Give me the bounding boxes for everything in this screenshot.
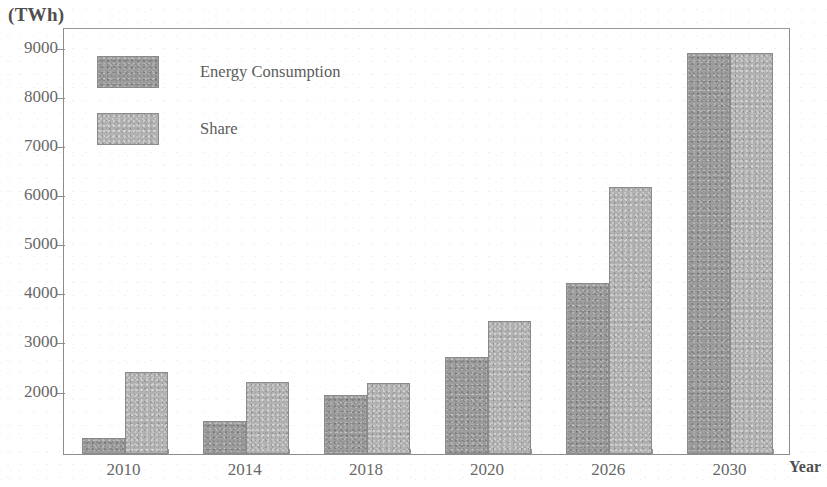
x-axis-caption: Year — [789, 458, 821, 476]
legend-swatch — [97, 113, 159, 145]
x-axis-tick-mark — [531, 449, 532, 455]
legend-swatch — [97, 56, 159, 88]
bar-share-2030 — [730, 53, 773, 454]
y-axis-tick-mark — [57, 294, 65, 295]
bar-energy-consumption-2018 — [324, 395, 367, 454]
x-axis-tick-mark — [652, 449, 653, 455]
x-axis-tick-label: 2020 — [470, 460, 504, 480]
plot-area: Energy ConsumptionShare — [63, 28, 790, 455]
x-axis-tick-label: 2030 — [712, 460, 746, 480]
legend-label: Energy Consumption — [200, 62, 340, 82]
y-axis-tick-label: 5000 — [6, 234, 58, 254]
legend-item-share: Share — [97, 112, 238, 146]
bar-share-2014 — [246, 382, 289, 454]
y-axis-tick-mark — [57, 393, 65, 394]
x-axis-tick-mark — [773, 449, 774, 455]
y-axis-tick-mark — [57, 245, 65, 246]
bar-share-2026 — [609, 187, 652, 454]
bar-energy-consumption-2020 — [445, 357, 488, 454]
bar-share-2020 — [488, 321, 531, 454]
x-axis-tick-mark — [410, 449, 411, 455]
x-axis-tick-label: 2026 — [591, 460, 625, 480]
x-axis-tick-mark — [168, 449, 169, 455]
legend-label: Share — [200, 119, 238, 139]
x-axis-tick-label: 2018 — [349, 460, 383, 480]
bar-chart-figure: (TWh) 20003000400050006000700080009000 E… — [0, 0, 827, 487]
legend-item-energy-consumption: Energy Consumption — [97, 55, 340, 89]
bar-energy-consumption-2026 — [566, 283, 609, 454]
y-axis-tick-mark — [57, 196, 65, 197]
y-axis-tick-label: 3000 — [6, 332, 58, 352]
y-axis-tick-label: 8000 — [6, 87, 58, 107]
y-axis-tick-label: 2000 — [6, 382, 58, 402]
y-axis-tick-mark — [57, 147, 65, 148]
y-axis-tick-mark — [57, 343, 65, 344]
y-axis-tick-label: 6000 — [6, 185, 58, 205]
y-axis-tick-label-group: 20003000400050006000700080009000 — [0, 0, 58, 487]
y-axis-tick-label: 7000 — [6, 136, 58, 156]
bar-energy-consumption-2014 — [203, 421, 246, 454]
x-axis-tick-mark — [289, 449, 290, 455]
x-axis-tick-label: 2010 — [107, 460, 141, 480]
bar-energy-consumption-2030 — [687, 53, 730, 454]
bar-energy-consumption-2010 — [82, 438, 125, 454]
x-axis-tick-label: 2014 — [228, 460, 262, 480]
y-axis-tick-label: 9000 — [6, 38, 58, 58]
y-axis-tick-mark — [57, 98, 65, 99]
y-axis-tick-label: 4000 — [6, 283, 58, 303]
bar-share-2018 — [367, 383, 410, 454]
y-axis-tick-mark — [57, 49, 65, 50]
bar-share-2010 — [125, 372, 168, 454]
